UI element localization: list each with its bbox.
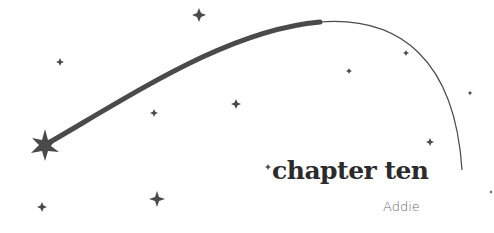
shooting-star-trail [45,21,462,170]
star-icon [150,109,158,117]
star-icon [489,190,493,194]
star-icon [346,68,352,74]
star-icon [231,99,241,109]
author-name: Addie [383,199,420,215]
chapter-title: chapter ten [272,156,429,186]
star-icon [149,191,165,207]
star-icon [37,202,47,212]
shooting-star-icon [31,129,59,161]
sparkle-icon [265,164,271,170]
star-icon [468,91,473,96]
shooting-star-trail-thick [45,22,320,145]
star-icon [56,58,64,66]
star-icon [403,50,409,56]
star-icon [426,138,434,146]
shooting-star-illustration [0,0,494,233]
star-icon [192,8,206,22]
